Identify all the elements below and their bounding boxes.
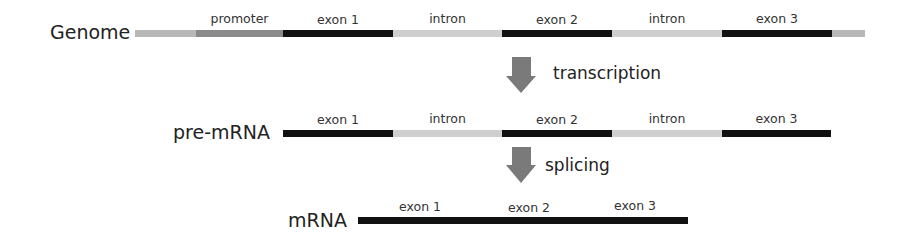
pre-mrna-exon-1-label: exon 1 xyxy=(283,114,393,127)
pre-mrna-intron-2 xyxy=(612,130,722,137)
pre-mrna-exon-1 xyxy=(283,130,393,137)
mrna-exon-3-label: exon 3 xyxy=(580,200,690,213)
genome-exon-3-label: exon 3 xyxy=(722,13,832,26)
genome-exon-1-label: exon 1 xyxy=(283,14,393,27)
genome-exon-2-label: exon 2 xyxy=(502,14,612,27)
genome-exon-1 xyxy=(283,30,393,37)
splicing-arrow-icon xyxy=(506,147,536,183)
genome-exon-3 xyxy=(722,30,832,37)
pre-mrna-exon-3-label: exon 3 xyxy=(722,113,831,126)
splicing-label: splicing xyxy=(545,157,610,174)
transcription-label: transcription xyxy=(553,65,661,82)
genome-intron-2-label: intron xyxy=(612,13,722,26)
pre-mrna-intron-2-label: intron xyxy=(612,113,722,126)
mrna-exon-3 xyxy=(578,217,688,224)
genome-intron-1-label: intron xyxy=(393,13,502,26)
mrna-exon-2 xyxy=(468,217,578,224)
genome-intron-1 xyxy=(393,30,502,37)
transcription-arrow-icon xyxy=(506,57,536,93)
genome-promoter-label: promoter xyxy=(196,13,283,26)
mrna-exon-1 xyxy=(358,217,468,224)
genome-exon-2 xyxy=(502,30,612,37)
pre-mrna-intron-1 xyxy=(393,130,502,137)
mrna-label: mRNA xyxy=(288,211,347,230)
genome-downstream-flank xyxy=(832,30,865,37)
genome-promoter xyxy=(196,30,283,37)
pre-mrna-intron-1-label: intron xyxy=(393,113,502,126)
pre-mrna-exon-3 xyxy=(722,130,831,137)
genome-label: Genome xyxy=(50,23,130,42)
genome-upstream-flank xyxy=(135,30,196,37)
mrna-exon-1-label: exon 1 xyxy=(365,201,475,214)
mrna-exon-2-label: exon 2 xyxy=(474,202,584,215)
pre-mrna-exon-2-label: exon 2 xyxy=(502,114,612,127)
pre-mrna-label: pre-mRNA xyxy=(173,123,270,142)
genome-intron-2 xyxy=(612,30,722,37)
pre-mrna-exon-2 xyxy=(502,130,612,137)
